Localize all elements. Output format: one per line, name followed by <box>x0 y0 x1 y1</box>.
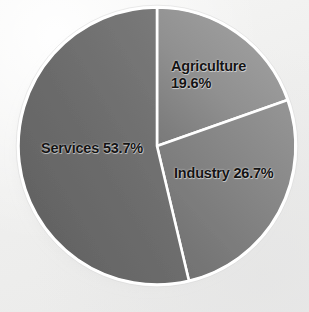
pie-label-agriculture: Agriculture 19.6% <box>171 58 246 91</box>
pie-chart-figure: Agriculture 19.6% Industry 26.7% Service… <box>0 0 309 312</box>
pie-label-industry: Industry 26.7% <box>174 165 274 182</box>
pie-label-services: Services 53.7% <box>41 140 143 157</box>
